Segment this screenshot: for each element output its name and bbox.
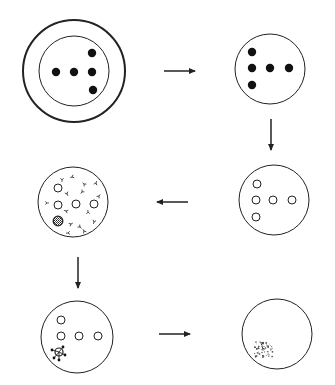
debris-speck [256, 349, 257, 350]
debris-speck [254, 353, 255, 354]
antibody-y-icon [92, 220, 96, 225]
debris-speck [256, 355, 257, 356]
solid-cell-dot [88, 68, 96, 76]
solid-cell-dot [88, 49, 96, 57]
antibody-y-icon [60, 178, 63, 182]
solid-cell-dot [248, 64, 256, 72]
debris-speck [262, 355, 263, 356]
debris-speck [262, 356, 263, 357]
antibody-y-icon [69, 222, 74, 227]
debris-speck [255, 342, 256, 343]
open-cell-circle [54, 201, 62, 209]
solid-cell-dot [248, 48, 256, 56]
panel-5-complement [41, 301, 113, 373]
open-cell-circle [75, 332, 83, 340]
solid-cell-dot [266, 64, 274, 72]
debris-speck [270, 349, 271, 350]
debris-speck [259, 341, 260, 342]
open-cell-circle [269, 196, 277, 204]
debris-speck [265, 347, 266, 348]
antibody-stroke [97, 193, 102, 198]
hatched-cell-circle [53, 216, 63, 226]
open-cell-circle [57, 332, 65, 340]
debris-speck [263, 350, 264, 351]
antibody-y-icon [45, 201, 49, 204]
antibody-y-icon [64, 209, 69, 213]
open-cell-circle [252, 196, 260, 204]
debris-speck [258, 346, 259, 347]
diagram-canvas [0, 0, 335, 385]
debris-speck [262, 342, 263, 343]
complement-attack-icon [51, 346, 67, 362]
dish-circle [242, 299, 312, 369]
panels-group [23, 20, 312, 373]
debris-speck [255, 347, 256, 348]
debris-speck [267, 346, 268, 347]
debris-speck [268, 356, 269, 357]
debris-speck [261, 346, 262, 347]
antibody-y-icon [78, 225, 83, 230]
debris-speck [261, 344, 262, 345]
open-cell-circle [253, 180, 261, 188]
panel-2-isolated [235, 34, 305, 104]
debris-speck [271, 356, 272, 357]
solid-cell-dot [285, 64, 293, 72]
solid-cell-dot [70, 68, 78, 76]
antibody-stroke [66, 231, 70, 235]
solid-cell-dot [89, 86, 97, 94]
antibody-y-icon [65, 192, 70, 197]
antibody-y-icon [70, 175, 75, 179]
debris-speck [267, 351, 268, 352]
debris-speck [261, 349, 262, 350]
debris-speck [264, 351, 265, 352]
debris-speck [266, 355, 267, 356]
antibody-stroke [79, 190, 84, 195]
open-cell-circle [288, 196, 296, 204]
antibody-stroke [92, 220, 96, 225]
debris-speck [270, 349, 271, 350]
open-cell-circle [57, 316, 65, 324]
antibody-y-icon [81, 181, 86, 186]
debris-speck [271, 349, 272, 350]
open-cell-circle [72, 200, 80, 208]
debris-speck [256, 344, 257, 345]
antibody-y-icon [79, 190, 84, 195]
solid-cell-dot [248, 81, 256, 89]
open-cell-circle [94, 332, 102, 340]
antibody-stroke [81, 181, 86, 186]
antibody-stroke [60, 178, 63, 182]
complement-dot [58, 359, 61, 362]
debris-speck [255, 356, 256, 357]
solid-cell-dot [52, 68, 60, 76]
debris-speck [270, 345, 271, 346]
debris-speck [258, 352, 259, 353]
antibody-y-icon [66, 231, 70, 235]
complement-dot [62, 346, 65, 349]
antibody-y-icon [97, 193, 102, 198]
debris-speck [269, 354, 270, 355]
panel-1-initial [23, 20, 125, 122]
debris-speck [269, 344, 270, 345]
antibody-stroke [70, 175, 75, 179]
open-cell-circle [54, 184, 62, 192]
debris-speck [266, 345, 267, 346]
debris-speck [268, 354, 269, 355]
antibody-stroke [94, 181, 98, 186]
antibody-stroke [65, 192, 70, 197]
debris-speck [261, 352, 262, 353]
debris-speck [272, 352, 273, 353]
antibody-y-icon [82, 228, 87, 233]
complement-dot [53, 357, 56, 360]
panel-4-antibody [38, 167, 108, 237]
debris-speck [265, 342, 266, 343]
debris-speck [263, 346, 264, 347]
debris-speck [262, 348, 263, 349]
antibody-stroke [69, 222, 74, 227]
antibody-stroke [64, 209, 69, 213]
panel-6-lysed [242, 299, 312, 369]
debris-speck [272, 348, 273, 349]
debris-speck [258, 347, 259, 348]
antibody-stroke [82, 228, 87, 233]
debris-speck [259, 353, 260, 354]
antibody-y-icon [86, 210, 89, 214]
